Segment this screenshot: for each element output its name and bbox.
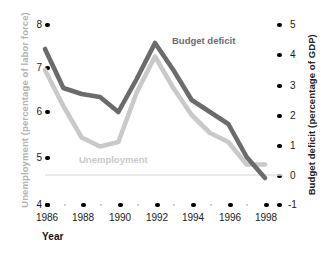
plot-area bbox=[0, 0, 323, 258]
series-label-budget-deficit: Budget deficit bbox=[172, 36, 235, 46]
series-line-budget-deficit bbox=[45, 43, 265, 178]
chart-figure: Unemployment (percentage of labor force)… bbox=[0, 0, 323, 258]
series-line-unemployment bbox=[45, 57, 265, 165]
series-label-unemployment: Unemployment bbox=[79, 155, 148, 165]
